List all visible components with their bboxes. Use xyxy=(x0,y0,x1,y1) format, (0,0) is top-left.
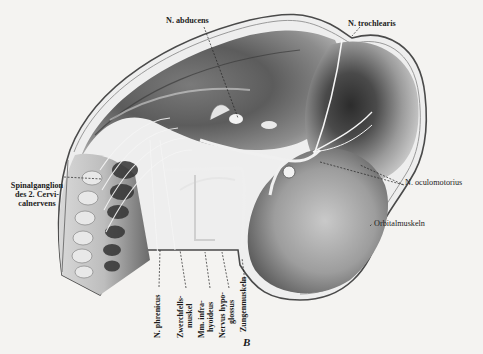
label-spinalganglion-line-1: Spinalganglion xyxy=(8,181,66,190)
label-hypoglossus-line-2: glossus xyxy=(228,292,237,338)
label-zungenmuskeln: Zungenmuskeln xyxy=(240,277,249,332)
label-spinalganglion-line-2: des 2. Cervi- xyxy=(8,190,66,199)
label-nervus-hypoglossus: Nervus hypo- glossus xyxy=(219,292,236,338)
label-zwerchfellsmuskel: Zwerchfells- muskel xyxy=(177,295,194,338)
label-n-trochlearis: N. trochlearis xyxy=(348,19,396,28)
label-n-abducens: N. abducens xyxy=(166,16,209,25)
label-n-oculomotorius: N. oculomotorius xyxy=(405,178,462,187)
label-spinalganglion: Spinalganglion des 2. Cervi- calnervens xyxy=(8,181,66,208)
figure-panel-letter: B xyxy=(243,336,250,348)
label-infrahyoideus-line-2: hyoideus xyxy=(207,300,216,338)
label-orbitalmuskeln: Orbitalmuskeln xyxy=(374,219,425,228)
label-mm-infrahyoideus: Mm. infra- hyoideus xyxy=(198,300,215,338)
label-spinalganglion-line-3: calnervens xyxy=(8,199,66,208)
label-zwerchfellsmuskel-line-2: muskel xyxy=(186,295,195,338)
label-n-phrenicus: N. phrenicus xyxy=(154,295,163,338)
